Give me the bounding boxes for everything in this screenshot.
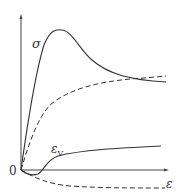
x-axis-arrow-icon: [164, 169, 169, 172]
volumetric-strain-dashed-curve: [21, 170, 165, 188]
stress-curve: [21, 30, 166, 170]
stress-label: σ: [32, 36, 42, 51]
stress-dashed-curve: [21, 76, 166, 170]
origin-label: 0: [9, 164, 17, 178]
y-axis-arrow-icon: [20, 14, 23, 19]
volumetric-strain-label-sub: V: [56, 149, 63, 158]
volumetric-strain-label: εV: [51, 142, 63, 158]
x-axis-label: ε: [166, 177, 172, 191]
diagram: σ εV 0 ε: [0, 0, 184, 196]
